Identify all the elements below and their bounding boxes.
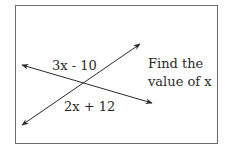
diagram-svg: 3x - 10 2x + 12 Find the value of x: [0, 0, 228, 153]
angle-label-top: 3x - 10: [52, 58, 97, 73]
diagram-canvas: 3x - 10 2x + 12 Find the value of x: [0, 0, 228, 153]
angle-label-bottom: 2x + 12: [64, 99, 115, 114]
prompt-line-2: value of x: [147, 74, 212, 89]
prompt-line-1: Find the: [148, 56, 204, 71]
